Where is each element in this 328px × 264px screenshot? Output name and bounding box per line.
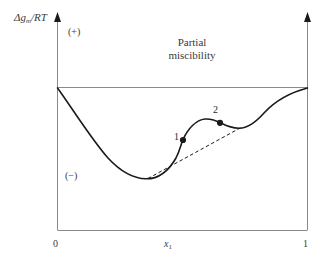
negative-region-label: (−) bbox=[65, 170, 77, 182]
y-axis-label-rest: /RT bbox=[31, 11, 47, 23]
y-axis-label: Δgm/RT bbox=[14, 11, 47, 25]
y-axis-arrowhead bbox=[54, 12, 61, 22]
x-axis-label-subscript: 1 bbox=[168, 243, 172, 251]
region-annotation-line-2: miscibility bbox=[150, 49, 234, 62]
positive-region-label: (+) bbox=[68, 26, 80, 38]
data-point-2-marker bbox=[217, 120, 223, 126]
data-point-1-marker bbox=[180, 137, 186, 143]
gibbs-energy-curve bbox=[58, 88, 308, 179]
region-annotation: Partial miscibility bbox=[150, 36, 234, 61]
region-annotation-line-1: Partial bbox=[150, 36, 234, 49]
data-point-2-label: 2 bbox=[213, 104, 218, 115]
data-point-1-label: 1 bbox=[174, 131, 179, 142]
x-axis-tick-right: 1 bbox=[303, 238, 308, 250]
x-axis-tick-left: 0 bbox=[53, 238, 58, 250]
x-axis-label: x1 bbox=[164, 238, 172, 251]
right-axis-arrowhead bbox=[304, 12, 311, 22]
y-axis-label-main: Δg bbox=[14, 11, 26, 23]
common-tangent-line bbox=[148, 128, 241, 179]
chart-figure: Δgm/RT (+) (−) Partial miscibility 1 2 0… bbox=[0, 0, 328, 264]
